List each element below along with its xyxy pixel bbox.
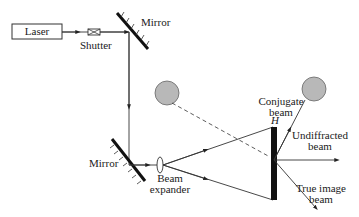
conjugate-beam-label: Conjugate beam — [250, 96, 312, 118]
true-image-beam-label: True image beam — [290, 183, 352, 205]
beam-expander-label-line2: expander — [145, 184, 195, 195]
shutter-label: Shutter — [80, 40, 112, 51]
laser-label: Laser — [12, 26, 62, 37]
object-circle — [155, 81, 179, 105]
undiffracted-beam-label: Undiffracted beam — [284, 130, 356, 152]
true-image-beam-label-line2: beam — [290, 194, 352, 205]
hologram-plate — [271, 127, 277, 200]
mirror-bottom-label: Mirror — [89, 158, 118, 169]
beam-expander-label: Beam expander — [145, 173, 195, 195]
undiffracted-beam-label-line2: beam — [284, 141, 356, 152]
mirror-top-label: Mirror — [141, 17, 170, 28]
shutter-icon — [88, 29, 100, 35]
conjugate-beam-label-line2: beam — [250, 107, 312, 118]
lens-icon — [157, 157, 163, 173]
